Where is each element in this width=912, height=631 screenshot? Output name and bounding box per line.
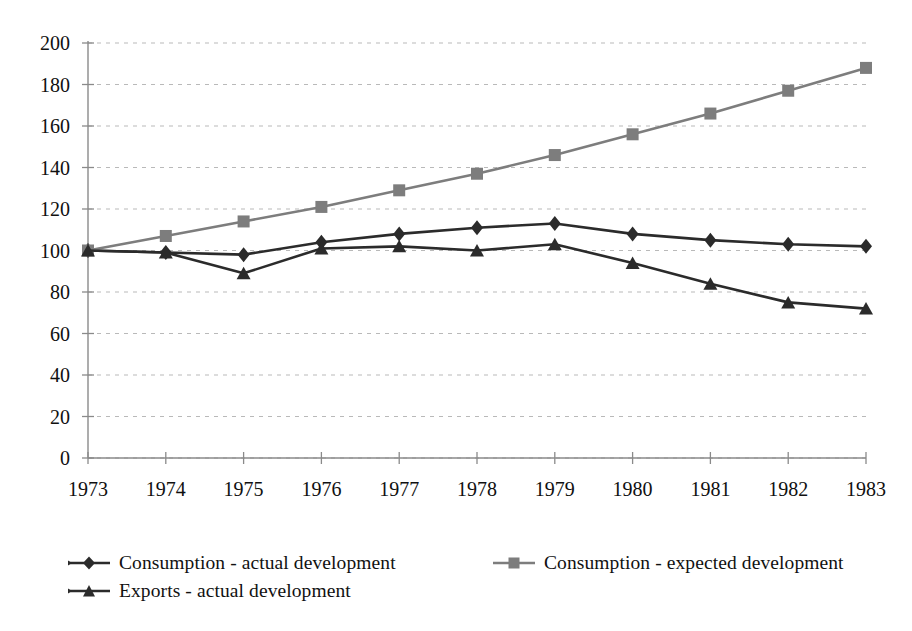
chart-legend: Consumption - actual development Consump… xyxy=(68,549,898,604)
diamond-marker-icon xyxy=(627,226,639,241)
y-axis-tick-label: 120 xyxy=(40,198,70,220)
diamond-marker-icon xyxy=(782,237,794,252)
y-axis-tick-labels: 020406080100120140160180200 xyxy=(40,32,70,469)
diamond-marker-icon xyxy=(393,226,405,241)
square-marker-icon xyxy=(782,85,794,97)
y-axis-tick-label: 180 xyxy=(40,74,70,96)
diamond-marker-icon xyxy=(704,233,716,248)
x-axis-tick-label: 1983 xyxy=(846,478,886,500)
legend-item-consumption-actual[interactable]: Consumption - actual development xyxy=(68,549,463,577)
y-axis-tick-label: 100 xyxy=(40,240,70,262)
y-axis-tick-label: 200 xyxy=(40,32,70,54)
y-axis-tick-label: 60 xyxy=(50,323,70,345)
square-marker-icon xyxy=(315,201,327,213)
legend-label-consumption-actual: Consumption - actual development xyxy=(119,549,396,577)
chart-canvas: 020406080100120140160180200 197319741975… xyxy=(0,0,912,530)
diamond-marker-icon xyxy=(549,216,561,231)
legend-item-consumption-expected[interactable]: Consumption - expected development xyxy=(493,549,844,577)
legend-label-consumption-expected: Consumption - expected development xyxy=(544,549,844,577)
legend-row-1: Consumption - actual development Consump… xyxy=(68,549,898,577)
square-marker-icon xyxy=(704,108,716,120)
x-axis-tick-label: 1974 xyxy=(146,478,186,500)
legend-item-exports-actual[interactable]: Exports - actual development xyxy=(68,577,463,605)
y-axis-tick-label: 140 xyxy=(40,157,70,179)
square-marker-icon xyxy=(627,128,639,140)
x-axis-tick-label: 1973 xyxy=(68,478,108,500)
diamond-marker-icon xyxy=(860,239,872,254)
line-chart: 020406080100120140160180200 197319741975… xyxy=(0,0,912,631)
y-axis-tick-label: 80 xyxy=(50,281,70,303)
x-axis-tick-label: 1975 xyxy=(224,478,264,500)
x-axis-tick-label: 1977 xyxy=(379,478,419,500)
x-axis-tick-label: 1978 xyxy=(457,478,497,500)
diamond-marker-icon xyxy=(68,554,110,572)
diamond-marker-icon xyxy=(238,247,250,262)
legend-row-2: Exports - actual development xyxy=(68,577,898,605)
series-3 xyxy=(81,238,873,315)
x-axis-tick-label: 1980 xyxy=(613,478,653,500)
plot-area: 020406080100120140160180200 197319741975… xyxy=(0,0,912,530)
square-marker-icon xyxy=(238,215,250,227)
square-marker-icon xyxy=(860,62,872,74)
x-axis-tick-label: 1976 xyxy=(301,478,341,500)
square-marker-icon xyxy=(160,230,172,242)
y-axis-tick-label: 160 xyxy=(40,115,70,137)
diamond-marker-icon xyxy=(471,220,483,235)
x-axis-tick-label: 1982 xyxy=(768,478,808,500)
square-marker-icon xyxy=(471,168,483,180)
x-axis-tick-labels: 1973197419751976197719781979198019811982… xyxy=(68,478,886,500)
data-series-layer xyxy=(81,62,873,315)
y-axis-tick-label: 40 xyxy=(50,364,70,386)
square-marker-icon xyxy=(493,554,535,572)
y-axis-tick-label: 20 xyxy=(50,406,70,428)
x-axis-tick-label: 1981 xyxy=(690,478,730,500)
square-marker-icon xyxy=(393,184,405,196)
x-axis-tick-label: 1979 xyxy=(535,478,575,500)
legend-label-exports-actual: Exports - actual development xyxy=(119,577,351,605)
y-axis-tick-label: 0 xyxy=(60,447,70,469)
triangle-marker-icon xyxy=(68,582,110,600)
square-marker-icon xyxy=(549,149,561,161)
